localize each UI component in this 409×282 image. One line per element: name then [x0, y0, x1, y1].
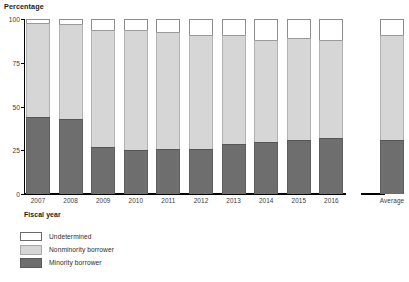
bar-segment-nonminority	[287, 38, 311, 140]
bar-segment-undetermined	[156, 19, 180, 32]
chart-legend: UndeterminedNonminority borrowerMinority…	[20, 230, 114, 270]
y-axis-tick-label: 100	[0, 16, 20, 23]
bar-segment-minority	[287, 140, 311, 194]
y-axis-tick-label: 25	[0, 147, 20, 154]
stacked-bar	[254, 19, 278, 194]
legend-item: Undetermined	[20, 230, 114, 243]
bar-segment-minority	[222, 144, 246, 194]
stacked-bar	[287, 19, 311, 194]
bar-segment-nonminority	[91, 30, 115, 147]
bar-segment-minority	[380, 140, 404, 194]
stacked-bar	[222, 19, 246, 194]
y-axis-tick-label: 75	[0, 59, 20, 66]
stacked-bar	[91, 19, 115, 194]
stacked-bar	[59, 19, 83, 194]
y-axis-tick	[21, 150, 25, 151]
stacked-bar	[380, 19, 404, 194]
bar-segment-nonminority	[156, 32, 180, 149]
y-axis-tick-label: 50	[0, 103, 20, 110]
x-axis-tick-label: 2016	[311, 197, 351, 204]
y-axis-tick	[21, 19, 25, 20]
bar-segment-undetermined	[254, 19, 278, 40]
bar-segment-undetermined	[222, 19, 246, 35]
bar-segment-nonminority	[189, 35, 213, 149]
bar-segment-minority	[26, 117, 50, 194]
legend-label: Nonminority borrower	[49, 246, 114, 253]
bar-segment-minority	[254, 142, 278, 195]
stacked-bar	[124, 19, 148, 194]
stacked-bar-chart: Percentage 0255075100 200720082009201020…	[0, 0, 409, 282]
y-axis-title: Percentage	[4, 2, 44, 11]
y-axis-tick	[21, 194, 25, 195]
bar-segment-undetermined	[189, 19, 213, 35]
legend-swatch	[20, 258, 42, 268]
stacked-bar	[156, 19, 180, 194]
y-axis-tick	[21, 107, 25, 108]
legend-label: Undetermined	[49, 233, 92, 240]
legend-swatch	[20, 245, 42, 255]
bar-segment-minority	[91, 147, 115, 194]
x-axis-title: Fiscal year	[24, 211, 61, 218]
y-axis-tick-label: 0	[0, 191, 20, 198]
stacked-bar	[319, 19, 343, 194]
bar-segment-undetermined	[124, 19, 148, 30]
bar-segment-minority	[189, 149, 213, 195]
bar-segment-nonminority	[254, 40, 278, 142]
legend-item: Minority borrower	[20, 256, 114, 269]
bar-segment-undetermined	[91, 19, 115, 30]
stacked-bar	[189, 19, 213, 194]
bar-segment-undetermined	[380, 19, 404, 35]
bar-segment-minority	[319, 138, 343, 194]
bar-segment-nonminority	[124, 30, 148, 150]
legend-swatch	[20, 232, 42, 242]
stacked-bar	[26, 19, 50, 194]
bar-segment-nonminority	[319, 40, 343, 138]
bar-segment-minority	[156, 149, 180, 194]
bar-segment-minority	[124, 150, 148, 194]
bar-segment-undetermined	[319, 19, 343, 40]
legend-label: Minority borrower	[49, 259, 102, 266]
bar-segment-nonminority	[59, 24, 83, 119]
bar-segment-minority	[59, 119, 83, 194]
y-axis-tick	[21, 63, 25, 64]
bar-segment-nonminority	[380, 35, 404, 140]
bar-segment-nonminority	[26, 23, 50, 118]
legend-item: Nonminority borrower	[20, 243, 114, 256]
bar-segment-nonminority	[222, 35, 246, 144]
bar-segment-undetermined	[287, 19, 311, 38]
x-axis-tick-label: Average	[372, 197, 409, 204]
